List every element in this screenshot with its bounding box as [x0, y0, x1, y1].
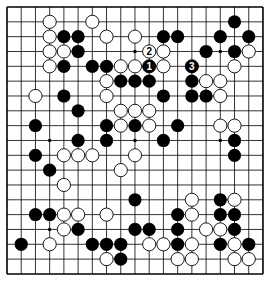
black-stone: [100, 60, 113, 73]
white-stone: [86, 149, 99, 162]
black-stone: [15, 238, 28, 251]
white-stone: [43, 15, 56, 28]
go-board: 123: [0, 0, 270, 284]
black-stone: [29, 208, 42, 221]
black-stone: [228, 223, 241, 236]
black-stone: [143, 223, 156, 236]
star-point: [48, 228, 52, 232]
black-stone: [57, 89, 70, 102]
black-stone: [100, 119, 113, 132]
black-stone: [29, 119, 42, 132]
white-stone: [100, 89, 113, 102]
white-stone: [43, 238, 56, 251]
white-stone: [114, 119, 127, 132]
white-stone: [43, 45, 56, 58]
black-stone: [29, 149, 42, 162]
move-number-label: 1: [146, 61, 152, 72]
black-stone: [86, 60, 99, 73]
black-stone: [242, 238, 255, 251]
white-stone: [128, 30, 141, 43]
black-stone: [114, 253, 127, 266]
black-stone: [228, 208, 241, 221]
black-stone: [100, 238, 113, 251]
white-stone: [185, 253, 198, 266]
star-point: [219, 50, 223, 54]
black-stone: [185, 89, 198, 102]
white-stone: [171, 253, 184, 266]
black-stone: [43, 164, 56, 177]
white-stone: [228, 193, 241, 206]
move-number-label: 2: [146, 46, 152, 57]
black-stone: [128, 75, 141, 88]
white-stone: [57, 208, 70, 221]
white-stone: [242, 45, 255, 58]
white-stone: [228, 238, 241, 251]
black-stone: [128, 119, 141, 132]
white-stone: [128, 60, 141, 73]
white-stone: [157, 45, 170, 58]
black-stone: [114, 238, 127, 251]
black-stone: [171, 119, 184, 132]
white-stone: [143, 119, 156, 132]
black-stone: [128, 223, 141, 236]
black-stone: [171, 208, 184, 221]
white-stone: [72, 208, 85, 221]
black-stone: [214, 193, 227, 206]
white-stone: [57, 45, 70, 58]
black-stone: [199, 45, 212, 58]
black-stone: [114, 75, 127, 88]
white-stone: [214, 223, 227, 236]
black-stone: [228, 15, 241, 28]
white-stone: [199, 75, 212, 88]
white-stone: [86, 15, 99, 28]
white-stone: [29, 89, 42, 102]
black-stone: [157, 89, 170, 102]
white-stone: [57, 223, 70, 236]
white-stone: [143, 104, 156, 117]
black-stone: [128, 193, 141, 206]
black-stone: [171, 223, 184, 236]
star-point: [48, 139, 52, 143]
black-stone: [86, 238, 99, 251]
white-stone: [228, 253, 241, 266]
black-stone: [199, 89, 212, 102]
star-point: [133, 50, 137, 54]
black-stone: [43, 208, 56, 221]
white-stone: [128, 149, 141, 162]
black-stone: [72, 45, 85, 58]
white-stone: [114, 104, 127, 117]
white-stone: [185, 193, 198, 206]
black-stone: [157, 134, 170, 147]
white-stone: [185, 208, 198, 221]
white-stone: [214, 89, 227, 102]
black-stone: [171, 238, 184, 251]
white-stone: [100, 30, 113, 43]
white-stone: [57, 178, 70, 191]
star-point: [133, 139, 137, 143]
black-stone: [228, 45, 241, 58]
black-stone: [72, 104, 85, 117]
white-stone: [43, 60, 56, 73]
white-stone: [100, 253, 113, 266]
black-stone: [57, 60, 70, 73]
white-stone: [157, 238, 170, 251]
black-stone: [72, 30, 85, 43]
diagram-caption: [0, 276, 270, 284]
white-stone: [72, 149, 85, 162]
white-stone: [185, 238, 198, 251]
black-stone: [242, 30, 255, 43]
white-stone: [100, 75, 113, 88]
white-stone: [100, 208, 113, 221]
black-stone: [157, 30, 170, 43]
black-stone: [228, 134, 241, 147]
black-stone: [214, 30, 227, 43]
black-stone: [228, 149, 241, 162]
black-stone: [214, 238, 227, 251]
white-stone: [43, 30, 56, 43]
white-stone: [128, 104, 141, 117]
black-stone: [72, 134, 85, 147]
black-stone: [214, 208, 227, 221]
black-stone: [72, 223, 85, 236]
white-stone: [228, 119, 241, 132]
white-stone: [242, 253, 255, 266]
